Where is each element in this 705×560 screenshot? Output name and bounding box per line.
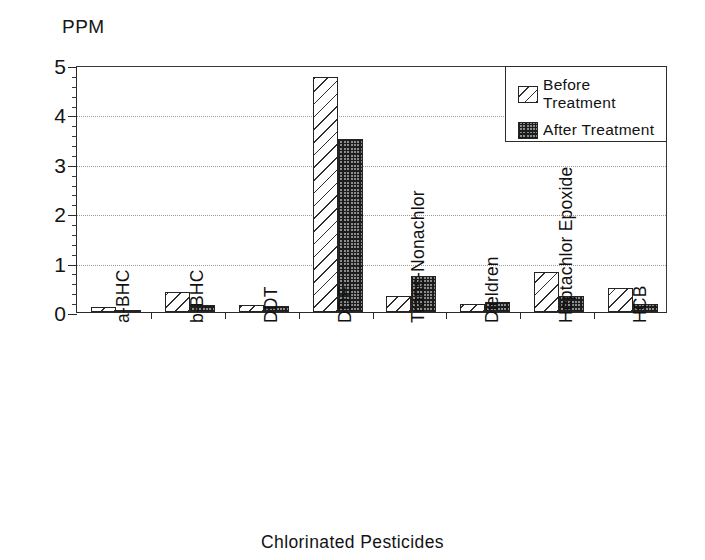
x-axis-category-label: Dieldren	[482, 256, 503, 323]
x-axis-category-label: b-BHC	[187, 269, 208, 323]
y-axis-minor-tick	[72, 87, 77, 88]
y-axis-minor-tick	[72, 284, 77, 285]
gridline	[77, 215, 666, 216]
y-axis-tick-label: 1	[54, 254, 66, 275]
y-axis-major-tick	[68, 116, 77, 117]
bar-before	[239, 305, 264, 312]
x-axis-tick	[446, 312, 447, 319]
y-axis-major-tick	[68, 67, 77, 68]
y-axis-minor-tick	[72, 274, 77, 275]
bar-before	[313, 77, 338, 312]
x-axis-tick	[151, 312, 152, 319]
y-axis-major-tick	[68, 166, 77, 167]
x-axis-category-label: Heptachlor Epoxide	[556, 167, 577, 323]
legend-label-before: Before Treatment	[543, 76, 666, 112]
x-axis-tick	[299, 312, 300, 319]
x-axis-tick	[225, 312, 226, 319]
y-axis-tick-label: 2	[54, 204, 66, 225]
y-axis-minor-tick	[72, 97, 77, 98]
y-axis-minor-tick	[72, 136, 77, 137]
legend-swatch-after-icon	[518, 122, 538, 139]
legend-item-after: After Treatment	[518, 121, 666, 139]
y-axis-minor-tick	[72, 126, 77, 127]
y-axis-minor-tick	[72, 225, 77, 226]
y-axis-major-tick	[68, 314, 77, 315]
x-axis-category-label: HCB	[630, 285, 651, 323]
y-axis-minor-tick	[72, 195, 77, 196]
legend-item-before: Before Treatment	[518, 76, 666, 112]
x-axis-title: Chlorinated Pesticides	[0, 532, 705, 553]
y-axis-minor-tick	[72, 107, 77, 108]
y-axis-major-tick	[68, 265, 77, 266]
y-axis-minor-tick	[72, 77, 77, 78]
y-axis-minor-tick	[72, 186, 77, 187]
legend-swatch-before-icon	[518, 86, 538, 103]
y-axis-tick-label: 5	[54, 56, 66, 77]
chart-legend: Before Treatment After Treatment	[505, 66, 667, 142]
y-axis-minor-tick	[72, 146, 77, 147]
y-axis-minor-tick	[72, 255, 77, 256]
x-axis-tick	[373, 312, 374, 319]
y-axis-title: PPM	[62, 16, 105, 38]
y-axis-minor-tick	[72, 304, 77, 305]
y-axis-minor-tick	[72, 235, 77, 236]
bar-chart: PPM 012345 Before Treatment After Treatm…	[0, 0, 705, 560]
x-axis-category-label: Trans-Nonachlor	[408, 190, 429, 323]
y-axis-minor-tick	[72, 176, 77, 177]
gridline	[77, 265, 666, 266]
gridline	[77, 166, 666, 167]
y-axis-minor-tick	[72, 294, 77, 295]
y-axis-tick-label: 3	[54, 155, 66, 176]
x-axis-category-label: DDE	[335, 285, 356, 323]
legend-label-after: After Treatment	[543, 121, 654, 139]
y-axis-minor-tick	[72, 245, 77, 246]
y-axis-tick-label: 0	[54, 303, 66, 324]
x-axis-tick	[520, 312, 521, 319]
y-axis-minor-tick	[72, 156, 77, 157]
x-axis-category-label: DDT	[261, 286, 282, 323]
x-axis-tick	[594, 312, 595, 319]
y-axis-major-tick	[68, 215, 77, 216]
y-axis-minor-tick	[72, 205, 77, 206]
y-axis-tick-label: 4	[54, 105, 66, 126]
x-axis-category-label: a-BHC	[113, 269, 134, 323]
